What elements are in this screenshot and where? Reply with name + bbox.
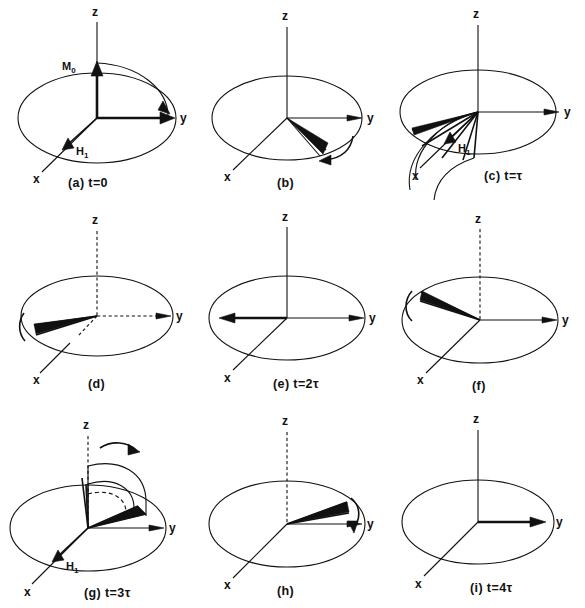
panel-caption: (e) t=2τ bbox=[273, 377, 319, 391]
svg-text:x: x bbox=[33, 373, 40, 387]
svg-text:y: y bbox=[367, 111, 374, 125]
svg-text:y: y bbox=[180, 111, 187, 125]
svg-text:z: z bbox=[92, 213, 98, 227]
svg-text:y: y bbox=[562, 313, 569, 327]
panel-caption: (f) bbox=[472, 379, 486, 393]
svg-text:x: x bbox=[412, 169, 419, 183]
panel-c: z y x H1 (c) t=τ bbox=[390, 0, 585, 203]
svg-text:z: z bbox=[475, 212, 481, 226]
panel-caption: (h) bbox=[277, 584, 294, 598]
spin-echo-figure: z y x M0 H1 (a) t=0 z y x (b) bbox=[0, 0, 585, 608]
svg-text:z: z bbox=[282, 414, 288, 428]
svg-text:y: y bbox=[176, 309, 183, 323]
svg-text:H1: H1 bbox=[76, 145, 89, 160]
svg-text:M0: M0 bbox=[62, 60, 76, 75]
panel-caption: (d) bbox=[88, 377, 105, 391]
svg-text:z: z bbox=[473, 412, 479, 426]
panel-caption: (g) t=3τ bbox=[84, 586, 131, 600]
panel-b: z y x (b) bbox=[195, 0, 390, 203]
svg-text:x: x bbox=[415, 577, 422, 591]
svg-text:x: x bbox=[224, 170, 231, 184]
panel-caption: (c) t=τ bbox=[484, 169, 523, 183]
svg-text:z: z bbox=[83, 418, 89, 432]
panel-caption: (i) t=4τ bbox=[470, 581, 512, 595]
svg-text:x: x bbox=[24, 585, 31, 599]
panel-g: z y x H1 (g) t=3τ bbox=[0, 406, 195, 608]
svg-text:x: x bbox=[224, 371, 231, 385]
svg-text:y: y bbox=[369, 311, 376, 325]
svg-text:y: y bbox=[564, 105, 571, 119]
panel-f: z y x (f) bbox=[390, 203, 585, 406]
svg-text:x: x bbox=[224, 578, 231, 592]
panel-caption: (a) t=0 bbox=[68, 176, 108, 190]
svg-text:x: x bbox=[33, 172, 40, 186]
svg-text:x: x bbox=[417, 373, 424, 387]
panel-e: z y x (e) t=2τ bbox=[195, 203, 390, 406]
panel-d: z y x (d) bbox=[0, 203, 195, 406]
panel-h: z y x (h) bbox=[195, 406, 390, 608]
panel-i: z y x (i) t=4τ bbox=[390, 406, 585, 608]
svg-text:y: y bbox=[169, 521, 176, 535]
svg-text:z: z bbox=[92, 5, 98, 19]
svg-text:z: z bbox=[282, 9, 288, 23]
svg-text:y: y bbox=[367, 517, 374, 531]
svg-text:z: z bbox=[473, 7, 479, 21]
svg-text:z: z bbox=[282, 210, 288, 224]
panel-a: z y x M0 H1 (a) t=0 bbox=[0, 0, 195, 203]
svg-text:H1: H1 bbox=[66, 560, 79, 575]
panel-caption: (b) bbox=[277, 176, 294, 190]
svg-text:y: y bbox=[556, 515, 563, 529]
